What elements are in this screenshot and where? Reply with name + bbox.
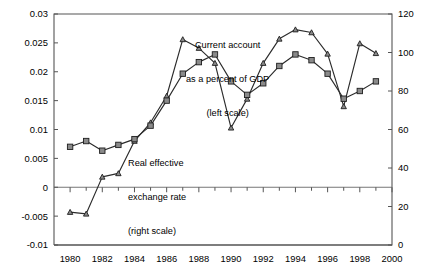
y2-tick-label: 40 xyxy=(398,162,408,173)
annotation-current-account-line-1: Current account xyxy=(186,40,269,51)
y-tick-label: 0.03 xyxy=(30,8,48,19)
x-axis-tick-labels: 1980198219841986198819901992199419961998… xyxy=(60,253,403,264)
data-point-marker xyxy=(67,144,72,149)
y-tick-label: -0.01 xyxy=(27,239,48,250)
y-tick-label: 0.025 xyxy=(25,37,48,48)
chart-figure: -0.01-0.00500.0050.010.0150.020.0250.03 … xyxy=(0,0,426,270)
y2-tick-label: 60 xyxy=(398,124,408,135)
x-tick-label: 1982 xyxy=(92,253,113,264)
y-tick-label: 0.02 xyxy=(30,66,48,77)
annotation-reer-line-3: (right scale) xyxy=(128,226,186,237)
y-tick-label: 0.005 xyxy=(25,153,48,164)
data-point-marker xyxy=(100,148,105,153)
annotation-real-effective-exchange-rate: Real effective exchange rate (right scal… xyxy=(128,135,186,260)
data-point-marker xyxy=(373,51,378,56)
y2-axis-tick-labels: 020406080100120 xyxy=(398,8,414,250)
data-point-marker xyxy=(293,52,298,57)
annotation-current-account-line-3: (left scale) xyxy=(186,108,269,119)
y2-tick-label: 100 xyxy=(398,47,414,58)
data-point-marker xyxy=(180,37,185,42)
y-tick-label: 0.015 xyxy=(25,95,48,106)
data-point-marker xyxy=(357,41,362,46)
data-point-marker xyxy=(83,138,88,143)
data-point-marker xyxy=(277,36,282,41)
data-point-marker xyxy=(325,71,330,76)
annotation-reer-line-2: exchange rate xyxy=(128,192,186,203)
data-point-marker xyxy=(341,104,346,109)
y2-tick-label: 20 xyxy=(398,201,408,212)
x-tick-label: 1996 xyxy=(317,253,338,264)
x-tick-label: 1990 xyxy=(221,253,242,264)
data-point-marker xyxy=(116,142,121,147)
data-point-marker xyxy=(148,123,153,128)
data-point-marker xyxy=(164,98,169,103)
y-axis-tick-labels: -0.01-0.00500.0050.010.0150.020.0250.03 xyxy=(21,8,48,250)
data-point-marker xyxy=(116,171,121,176)
data-point-marker xyxy=(309,58,314,63)
y2-tick-label: 120 xyxy=(398,8,414,19)
y2-tick-label: 0 xyxy=(398,239,403,250)
y-tick-label: 0 xyxy=(43,182,48,193)
data-point-marker xyxy=(373,79,378,84)
data-point-marker xyxy=(277,63,282,68)
x-tick-label: 1988 xyxy=(188,253,209,264)
x-tick-label: 1998 xyxy=(349,253,370,264)
y-tick-label: 0.01 xyxy=(30,124,48,135)
x-tick-label: 1992 xyxy=(253,253,274,264)
x-tick-label: 1980 xyxy=(60,253,81,264)
annotation-current-account-line-2: as a percent of GDP xyxy=(186,74,269,85)
y-tick-label: -0.005 xyxy=(21,211,48,222)
annotation-current-account: Current account as a percent of GDP (lef… xyxy=(186,17,269,142)
data-point-marker xyxy=(357,88,362,93)
y2-tick-label: 80 xyxy=(398,85,408,96)
data-point-marker xyxy=(180,71,185,76)
x-tick-label: 1994 xyxy=(285,253,306,264)
annotation-reer-line-1: Real effective xyxy=(128,158,186,169)
data-point-marker xyxy=(341,96,346,101)
x-tick-label: 2000 xyxy=(382,253,403,264)
